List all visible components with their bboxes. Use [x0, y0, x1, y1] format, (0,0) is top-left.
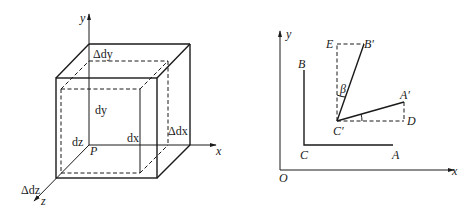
z-axis-label: z [40, 194, 46, 208]
cube-figure: y x z P Δdy Δdx Δdz dy dx dz [21, 11, 222, 208]
point-c-label: C [300, 148, 309, 162]
delta-dx-label: Δdx [168, 124, 188, 138]
alpha-angle-arc [361, 114, 362, 121]
segment-c-prime-a-prime [337, 102, 404, 121]
y-axis-right-label: y [285, 27, 292, 41]
point-a-prime-label: A′ [399, 88, 410, 102]
beta-label: β [339, 82, 346, 96]
dy-label: dy [95, 103, 107, 117]
diagram-canvas: y x z P Δdy Δdx Δdz dy dx dz y x O B C A [0, 0, 468, 208]
original-angle-bca [304, 70, 393, 145]
origin-o-label: O [279, 171, 288, 185]
origin-p-label: P [89, 144, 98, 158]
point-d-label: D [406, 114, 416, 128]
y-axis-label: y [79, 11, 86, 25]
point-b-label: B [298, 57, 306, 71]
dz-label: dz [72, 135, 83, 149]
point-b-prime-label: B′ [364, 37, 374, 51]
x-axis-label: x [215, 144, 222, 158]
point-c-prime-label: C′ [333, 124, 344, 138]
delta-dy-label: Δdy [93, 47, 113, 61]
x-axis-right-label: x [451, 164, 458, 178]
dx-label: dx [127, 131, 139, 145]
delta-dz-label: Δdz [21, 183, 40, 197]
shear-figure: y x O B C A E B′ A′ D C′ β [279, 27, 458, 185]
point-e-label: E [325, 37, 334, 51]
point-a-label: A [391, 148, 400, 162]
